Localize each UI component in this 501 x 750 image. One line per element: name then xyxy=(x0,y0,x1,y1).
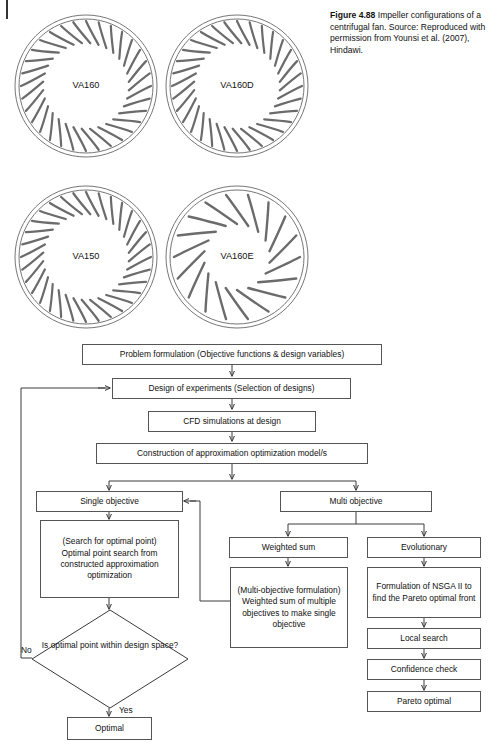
node-local-search[interactable]: Local search xyxy=(367,628,481,649)
node-cfd-simulations[interactable]: CFD simulations at design xyxy=(148,411,316,432)
node-optimal[interactable]: Optimal xyxy=(67,717,152,740)
node-decision-diamond[interactable] xyxy=(31,609,189,709)
node-multi-objective[interactable]: Multi objective xyxy=(280,491,432,512)
node-evolutionary[interactable]: Evolutionary xyxy=(367,537,481,558)
edge-label-yes: Yes xyxy=(119,705,133,715)
node-weighted-sum[interactable]: Weighted sum xyxy=(229,537,348,558)
node-single-objective[interactable]: Single objective xyxy=(36,491,183,512)
node-pareto-optimal[interactable]: Pareto optimal xyxy=(367,691,481,712)
figure-page: Figure 4.88 Impeller configurations of a… xyxy=(0,0,501,750)
node-search-for-optimal-point[interactable]: (Search for optimal point)Optimal point … xyxy=(40,520,179,598)
node-confidence-check[interactable]: Confidence check xyxy=(367,659,481,680)
optimization-flowchart: Problem formulation (Objective functions… xyxy=(0,0,501,750)
node-multi-objective-formulation[interactable]: (Multi-objective formulation)Weighted su… xyxy=(230,567,348,648)
node-design-of-experiments[interactable]: Design of experiments (Selection of desi… xyxy=(112,378,351,399)
node-problem-formulation[interactable]: Problem formulation (Objective functions… xyxy=(82,344,382,365)
node-construction-model[interactable]: Construction of approximation optimizati… xyxy=(96,443,368,464)
node-decision-label: Is optimal point within design space? xyxy=(41,640,179,651)
edge-label-no: No xyxy=(21,645,32,655)
node-nsga-formulation[interactable]: Formulation of NSGA II to find the Paret… xyxy=(367,567,481,618)
